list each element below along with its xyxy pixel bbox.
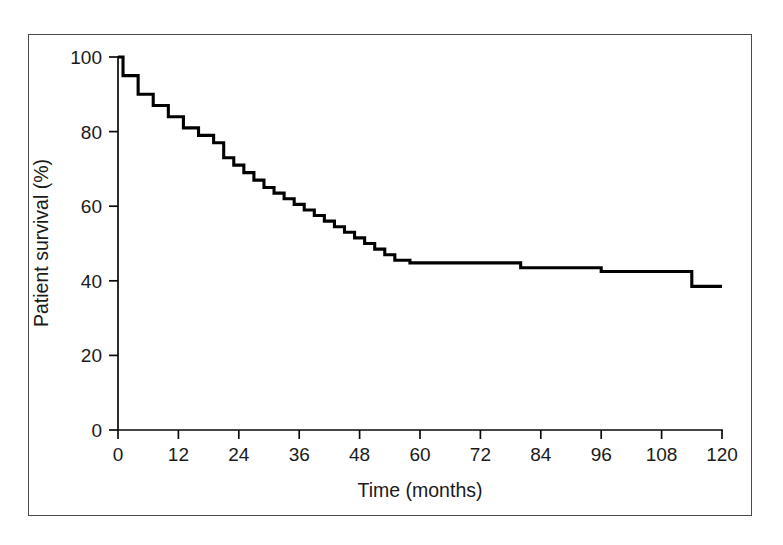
figure-border-frame <box>28 34 752 516</box>
figure-root: 01224364860728496108120020406080100 Time… <box>0 0 783 545</box>
